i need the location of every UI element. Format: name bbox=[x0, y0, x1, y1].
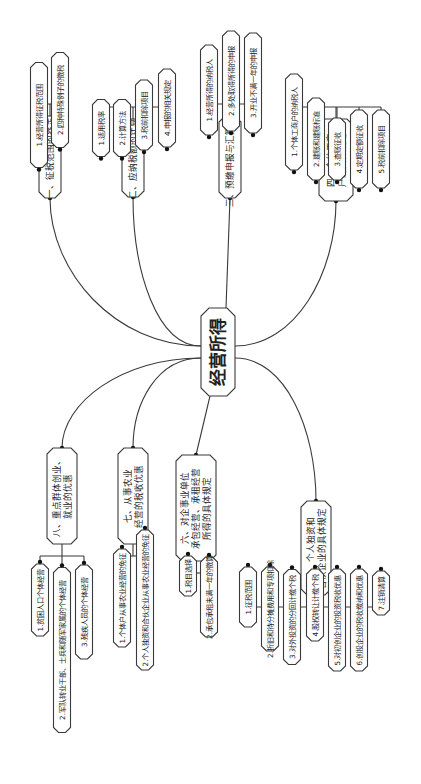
branch-edge bbox=[50, 198, 201, 346]
node-label: 七、从事农业 bbox=[122, 469, 133, 523]
leaf-node: 6.创投企业的税收缴纳和优惠 bbox=[351, 569, 368, 671]
branch-edge bbox=[235, 358, 316, 501]
node-label: 1.征税范围 bbox=[244, 580, 253, 615]
branch-node-8: 八、重点群体创业、就业的优惠 bbox=[47, 448, 77, 544]
node-label: 3.开业不满一年的申报 bbox=[249, 48, 258, 118]
leaf-node: 2.折旧和待分摊费用和专项扣除 bbox=[262, 560, 279, 658]
node-label: 1.税目选择 bbox=[184, 559, 193, 594]
node-label: 3.残疾人员的个体经营 bbox=[80, 577, 89, 647]
leaf-node: 7.注销清算 bbox=[373, 571, 390, 615]
leaf-node: 4.申报的相关规定 bbox=[159, 69, 176, 147]
node-label: 3.查账征收 bbox=[333, 132, 342, 167]
leaf-node: 3.查账征收 bbox=[329, 118, 346, 180]
leaf-node: 4.定期定额征收 bbox=[351, 110, 368, 188]
node-label: 2.军队转业干部、士兵和随军家属的个体经营 bbox=[58, 580, 67, 720]
leaf-node: 1.征税范围 bbox=[240, 567, 257, 627]
leaf-node: 2.计算方法 bbox=[114, 100, 131, 157]
leaf-node: 5.税前扣除项目 bbox=[373, 110, 390, 188]
branch-edge bbox=[226, 198, 230, 308]
node-label: 1.个体工商户的纳税人 bbox=[290, 87, 299, 157]
branch-edge bbox=[133, 358, 201, 448]
node-label: 1.经营所得的纳税人 bbox=[205, 59, 214, 122]
leaf-node: 2.承包承租未满一年的徵算 bbox=[201, 555, 218, 639]
node-label: 4.申报的相关规定 bbox=[163, 80, 172, 136]
branch-node-6: 六、对企事业单位承包经营、承租经营所得的具体规定 bbox=[176, 455, 216, 561]
node-label: 5.税前扣除项目 bbox=[377, 125, 386, 174]
leaf-node: 3.税前扣除项目 bbox=[136, 80, 153, 150]
root-node: 经营所得 bbox=[201, 308, 235, 396]
branch-edge bbox=[235, 201, 336, 346]
leaf-node: 2.军队转业干部、士兵和随军家属的个体经营 bbox=[54, 568, 71, 733]
node-label: 就业的优惠 bbox=[62, 474, 73, 519]
node-label: 2.折旧和待分摊费用和专项扣除 bbox=[266, 560, 275, 658]
node-label: 六、对企事业单位 bbox=[179, 472, 190, 544]
node-label: 3.税前扣除项目 bbox=[140, 91, 149, 140]
node-label: 6.创投企业的税收缴纳和优惠 bbox=[355, 575, 364, 666]
leaf-node: 5.对初创企业的投资税收优惠 bbox=[329, 569, 346, 671]
node-label: 2.四种特殊例子的徵税 bbox=[56, 65, 65, 135]
branch-edge bbox=[133, 197, 201, 346]
node-label: 所得的具体规定 bbox=[201, 477, 212, 540]
node-label: 1.贫困人口个体经营 bbox=[36, 569, 45, 632]
leaf-node: 2.四种特殊例子的徵税 bbox=[52, 53, 69, 148]
leaf-node: 3.残疾人员的个体经营 bbox=[76, 565, 93, 659]
node-label: 4.定期定额征收 bbox=[355, 125, 364, 174]
node-label: 1.经营所得征税范围 bbox=[35, 84, 44, 147]
node-label: 5.对初创企业的投资税收优惠 bbox=[333, 575, 342, 666]
leaf-node: 1.贫困人口个体经营 bbox=[32, 564, 49, 636]
node-label: 1.适用税率 bbox=[97, 111, 106, 146]
node-label: 4.股权转让计缴个税 bbox=[311, 574, 320, 637]
leaf-node: 1.经营所得征税范围 bbox=[31, 63, 48, 168]
leaf-node: 2.个人独资和合伙企业从事农业经营的免征 bbox=[137, 530, 154, 670]
node-label: 承包经营、承租经营 bbox=[190, 468, 201, 549]
branch-edge bbox=[62, 358, 201, 448]
node-label: 3.对外投资的分回计缴个税 bbox=[288, 575, 297, 659]
leaf-node: 1.经营所得的纳税人 bbox=[201, 45, 218, 135]
leaf-node: 2.多处取得所得的申报 bbox=[223, 31, 240, 131]
node-label: 八、重点群体创业、 bbox=[51, 456, 62, 537]
mind-map: 经营所得一、征税范围的界定1.经营所得征税范围2.四种特殊例子的徵税二、应纳税额… bbox=[0, 0, 421, 784]
leaf-node: 1.适用税率 bbox=[93, 100, 110, 157]
node-label: 2.个人独资和合伙企业从事农业经营的免征 bbox=[141, 534, 150, 667]
leaf-node: 2.建账和建账标准 bbox=[308, 98, 325, 180]
branch-edge bbox=[196, 396, 210, 455]
leaf-node: 1.税目选择 bbox=[180, 556, 197, 596]
node-label: 7.注销清算 bbox=[377, 576, 386, 611]
node-label: 2.建账和建账标准 bbox=[312, 111, 321, 167]
leaf-node: 3.对外投资的分回计缴个税 bbox=[284, 570, 301, 665]
node-label: 2.计算方法 bbox=[118, 111, 127, 146]
node-label: 2.多处取得所得的申报 bbox=[227, 46, 236, 116]
leaf-node: 1.个体工商户的纳税人 bbox=[286, 74, 303, 170]
node-label: 经营的税收优惠 bbox=[133, 465, 144, 528]
leaf-node: 4.股权转让计缴个税 bbox=[307, 569, 324, 641]
leaf-node: 3.开业不满一年的申报 bbox=[245, 33, 262, 133]
node-label: 1.个体户从事农业经营的免征 bbox=[118, 553, 127, 644]
node-label: 2.承包承租未满一年的徵算 bbox=[205, 555, 214, 639]
root-label: 经营所得 bbox=[208, 318, 228, 386]
leaf-node: 1.个体户从事农业经营的免征 bbox=[114, 549, 131, 647]
